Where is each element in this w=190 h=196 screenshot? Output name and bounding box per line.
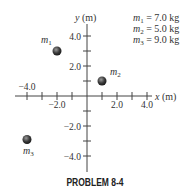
coordinate-diagram: −4.0−2.02.04.04.02.0−2.0−4.0 x (m) y (m)… (0, 0, 190, 196)
mass-1-label: m1 (41, 34, 52, 47)
mass-3-label: m3 (23, 145, 34, 158)
mass-2-point (98, 77, 107, 86)
mass-3-point (23, 135, 32, 144)
legend-mass-3: m3 = 9.0 kg (133, 34, 179, 47)
mass-2-label: m2 (110, 66, 121, 79)
x-axis-label: x (m) (154, 91, 176, 103)
x-tick-label: 4.0 (141, 100, 153, 110)
y-axis-label: y (m) (74, 12, 96, 24)
mass-1-point (53, 47, 62, 56)
y-tick-label: −2.0 (64, 122, 81, 132)
y-tick-label: −4.0 (64, 152, 81, 162)
x-tick-label: −4.0 (18, 82, 35, 92)
y-tick-label: 4.0 (69, 32, 81, 42)
x-tick-label: 2.0 (111, 100, 123, 110)
figure-caption: PROBLEM 8-4 (14, 177, 176, 188)
mass-legend: m1 = 7.0 kgm2 = 5.0 kgm3 = 9.0 kg (133, 12, 179, 47)
y-tick-label: 2.0 (69, 62, 81, 72)
x-tick-label: −2.0 (48, 100, 65, 110)
